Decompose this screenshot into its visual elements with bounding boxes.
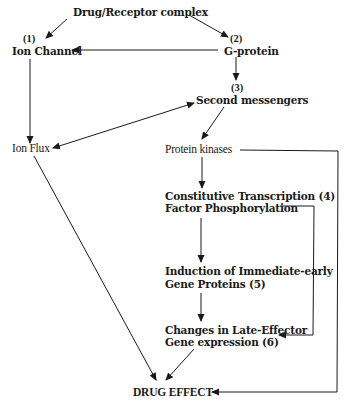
node-g-protein: G-protein (224, 45, 279, 57)
node-ion-flux: Ion Flux (12, 142, 50, 154)
node-second-messengers: Second messengers (196, 94, 308, 106)
signal-transduction-diagram: Drug/Receptor complex (1) Ion Channel (2… (0, 0, 349, 403)
node-ion-channel-number: (1) (23, 33, 35, 45)
node-second-messengers-number: (3) (231, 82, 243, 94)
edge-ion-flux-to-drug-effect (34, 156, 156, 380)
edge-second-messengers-to-protein-kinases (202, 107, 224, 139)
node-ion-channel: Ion Channel (12, 45, 82, 57)
node-late-effector-line1: Changes in Late-Effector (165, 324, 307, 336)
node-immediate-early-line2: Gene Proteins (5) (165, 278, 266, 290)
node-drug-receptor-complex: Drug/Receptor complex (73, 6, 208, 18)
node-late-effector-line2: Gene expression (6) (165, 336, 279, 348)
node-protein-kinases: Protein kinases (165, 143, 232, 155)
edge-late-effector-to-drug-effect (166, 349, 194, 380)
node-g-protein-number: (2) (230, 33, 242, 45)
edge-second-messengers-ion-flux (53, 103, 194, 148)
node-drug-effect: DRUG EFFECT (133, 386, 213, 398)
edge-drug-to-g-protein (189, 15, 228, 37)
node-immediate-early-line1: Induction of Immediate-early (165, 265, 333, 277)
node-transcription-line1: Constitutive Transcription (4) (165, 190, 335, 202)
edge-drug-to-ion-channel (46, 19, 67, 38)
node-transcription-line2: Factor Phosphorylation (165, 202, 298, 214)
